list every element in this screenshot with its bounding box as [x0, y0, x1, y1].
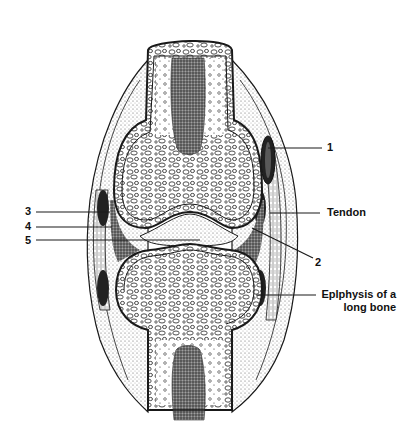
label-3: 3	[25, 205, 31, 218]
label-5: 5	[25, 234, 31, 247]
label-epiphysis: Eplphysis of a long bone	[318, 288, 396, 314]
label-epiphysis-line2: long bone	[318, 301, 396, 314]
label-4: 4	[25, 220, 31, 233]
label-epiphysis-line1: Eplphysis of a	[318, 288, 396, 301]
label-tendon: Tendon	[327, 206, 366, 219]
joint-diagram	[0, 0, 414, 446]
label-1: 1	[327, 141, 333, 154]
label-2: 2	[315, 256, 321, 269]
